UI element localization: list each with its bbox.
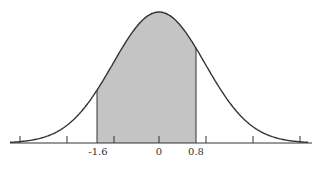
tick-label-neg-1-6: -1.6 bbox=[88, 146, 107, 157]
tick-label-0: 0 bbox=[156, 146, 162, 157]
normal-curve-chart bbox=[0, 0, 320, 169]
shaded-area bbox=[97, 12, 196, 143]
tick-label-0-8: 0.8 bbox=[188, 146, 204, 157]
